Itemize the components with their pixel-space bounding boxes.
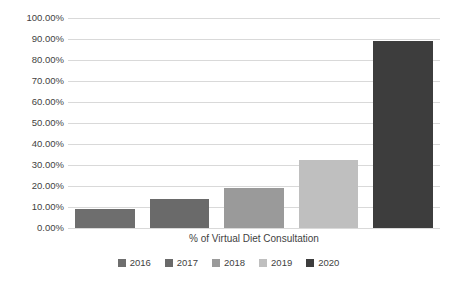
- y-axis-tick-label: 70.00%: [2, 76, 64, 86]
- legend-label: 2017: [177, 258, 198, 268]
- legend-label: 2018: [224, 258, 245, 268]
- y-axis-tick-label: 40.00%: [2, 139, 64, 149]
- legend-swatch-icon: [306, 259, 314, 267]
- y-axis-tick-label: 90.00%: [2, 34, 64, 44]
- gridline-000: [68, 228, 440, 229]
- legend-item-2020[interactable]: 2020: [306, 258, 339, 268]
- legend-item-2017[interactable]: 2017: [165, 258, 198, 268]
- x-axis-title: % of Virtual Diet Consultation: [68, 233, 440, 244]
- plot-area: [68, 18, 440, 228]
- chart-legend: 20162017201820192020: [0, 258, 457, 268]
- legend-label: 2016: [130, 258, 151, 268]
- legend-item-2018[interactable]: 2018: [212, 258, 245, 268]
- y-axis-tick-label: 20.00%: [2, 181, 64, 191]
- legend-swatch-icon: [118, 259, 126, 267]
- gridline-9000: [68, 39, 440, 40]
- gridline-10000: [68, 18, 440, 19]
- bar-2016: [75, 209, 135, 228]
- y-axis-tick-label: 50.00%: [2, 118, 64, 128]
- y-axis-tick-label: 0.00%: [2, 223, 64, 233]
- bar-2018: [224, 188, 284, 228]
- bar-chart: 100.00%90.00%80.00%70.00%60.00%50.00%40.…: [0, 0, 457, 284]
- y-axis-tick-label: 80.00%: [2, 55, 64, 65]
- legend-swatch-icon: [212, 259, 220, 267]
- bar-2020: [373, 41, 433, 228]
- bar-2017: [150, 199, 210, 228]
- y-axis-tick-label: 30.00%: [2, 160, 64, 170]
- y-axis-tick-label: 60.00%: [2, 97, 64, 107]
- legend-label: 2020: [318, 258, 339, 268]
- y-axis-tick-label: 10.00%: [2, 202, 64, 212]
- legend-swatch-icon: [259, 259, 267, 267]
- legend-label: 2019: [271, 258, 292, 268]
- y-axis-tick-label: 100.00%: [2, 13, 64, 23]
- legend-item-2019[interactable]: 2019: [259, 258, 292, 268]
- legend-swatch-icon: [165, 259, 173, 267]
- legend-item-2016[interactable]: 2016: [118, 258, 151, 268]
- y-axis-tick-labels: 100.00%90.00%80.00%70.00%60.00%50.00%40.…: [0, 18, 64, 228]
- bar-2019: [299, 160, 359, 228]
